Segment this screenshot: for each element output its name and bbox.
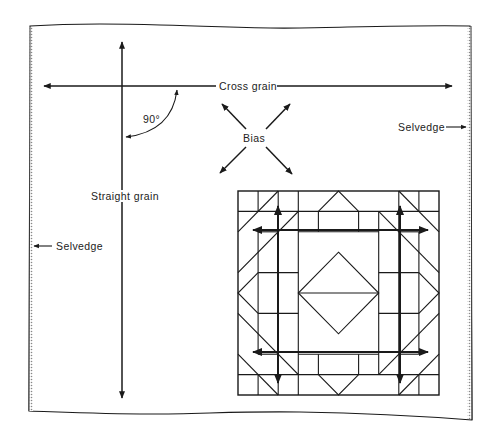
selvedge-left-label: Selvedge xyxy=(56,240,103,252)
selvedge-right-label: Selvedge xyxy=(398,121,445,133)
diagram-canvas xyxy=(0,0,497,436)
bias-label: Bias xyxy=(243,132,265,144)
cross-grain-label: Cross grain xyxy=(219,80,277,92)
angle-label: 90° xyxy=(143,113,160,125)
fabric-grain-diagram: Cross grain 90° Bias Selvedge Straight g… xyxy=(0,0,497,436)
straight-grain-label: Straight grain xyxy=(91,190,159,202)
